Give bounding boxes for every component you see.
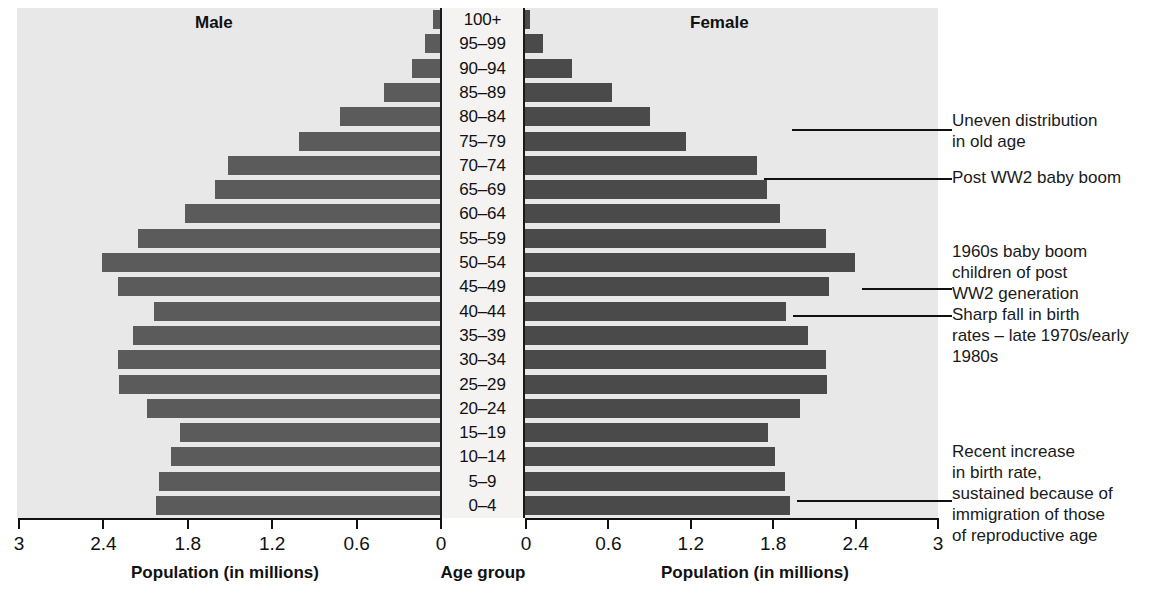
bar-male-100+ (433, 10, 440, 29)
leader-line-sharp-fall-birth-rates (793, 315, 952, 317)
bar-female-45-49 (525, 277, 829, 296)
bar-male-55-59 (138, 229, 440, 248)
age-group-label: 60–64 (440, 202, 525, 226)
right-axis-tick (937, 518, 939, 529)
male-header: Male (195, 13, 233, 33)
age-group-label: 40–44 (440, 300, 525, 324)
bar-female-35-39 (525, 326, 808, 345)
right-axis-tick-label: 0 (496, 533, 556, 555)
bar-row (0, 397, 1172, 421)
annotation-uneven-old-age: Uneven distribution in old age (952, 110, 1172, 152)
age-group-label: 65–69 (440, 178, 525, 202)
annotation-1960s-baby-boom: 1960s baby boom children of post WW2 gen… (952, 241, 1172, 304)
right-axis-tick (690, 518, 692, 529)
bar-male-60-64 (185, 204, 440, 223)
bar-female-80-84 (525, 107, 650, 126)
age-group-label: 5–9 (440, 470, 525, 494)
bar-male-10-14 (171, 447, 440, 466)
age-group-label: 45–49 (440, 275, 525, 299)
annotation-sharp-fall-birth-rates: Sharp fall in birth rates – late 1970s/e… (952, 304, 1172, 367)
bar-female-55-59 (525, 229, 826, 248)
bar-female-0-4 (525, 496, 790, 515)
right-axis-tick (607, 518, 609, 529)
bar-female-5-9 (525, 472, 785, 491)
center-axis-title: Age group (418, 563, 548, 583)
age-group-label: 30–34 (440, 348, 525, 372)
bar-female-25-29 (525, 375, 827, 394)
leader-line-recent-increase-birth-rate (797, 500, 952, 502)
left-axis-tick-label: 1.8 (158, 533, 218, 555)
age-group-label: 10–14 (440, 445, 525, 469)
left-axis-title: Population (in millions) (50, 563, 400, 583)
bar-male-75-79 (299, 132, 440, 151)
left-axis-tick (187, 518, 189, 529)
annotation-post-ww2-baby-boom: Post WW2 baby boom (952, 167, 1172, 188)
right-axis-tick (525, 518, 527, 529)
right-axis-line (525, 518, 939, 520)
left-axis-tick-label: 0.6 (327, 533, 387, 555)
age-group-label: 95–99 (440, 32, 525, 56)
bar-female-95-99 (525, 34, 543, 53)
left-axis-tick-label: 2.4 (73, 533, 133, 555)
right-axis-tick-label: 0.6 (578, 533, 638, 555)
bar-female-40-44 (525, 302, 786, 321)
right-axis-tick (772, 518, 774, 529)
bar-male-70-74 (228, 156, 440, 175)
right-axis-tick-label: 1.2 (661, 533, 721, 555)
bar-male-65-69 (215, 180, 440, 199)
leader-line-1960s-baby-boom (862, 288, 952, 290)
left-axis-tick (440, 518, 442, 529)
left-axis-tick (356, 518, 358, 529)
bar-row (0, 202, 1172, 226)
age-group-label: 20–24 (440, 397, 525, 421)
bar-male-50-54 (102, 253, 440, 272)
age-group-label: 35–39 (440, 324, 525, 348)
right-axis-title: Population (in millions) (580, 563, 930, 583)
age-group-label: 55–59 (440, 227, 525, 251)
bar-female-100+ (525, 10, 530, 29)
bar-female-65-69 (525, 180, 767, 199)
bar-male-45-49 (118, 277, 440, 296)
bar-female-20-24 (525, 399, 800, 418)
bar-male-20-24 (147, 399, 440, 418)
bar-row (0, 373, 1172, 397)
bar-male-40-44 (154, 302, 440, 321)
female-header: Female (690, 13, 749, 33)
bar-row (0, 57, 1172, 81)
age-group-label: 90–94 (440, 57, 525, 81)
bar-female-75-79 (525, 132, 686, 151)
left-axis-tick (102, 518, 104, 529)
age-group-label: 0–4 (440, 494, 525, 518)
left-axis-tick (18, 518, 20, 529)
bar-row (0, 8, 1172, 32)
bar-male-15-19 (180, 423, 440, 442)
age-group-label: 70–74 (440, 154, 525, 178)
population-pyramid-figure: 100+95–9990–9485–8980–8475–7970–7465–696… (0, 0, 1172, 596)
bar-female-15-19 (525, 423, 768, 442)
age-group-label: 100+ (440, 8, 525, 32)
bar-male-5-9 (159, 472, 440, 491)
left-axis-tick-label: 1.2 (242, 533, 302, 555)
age-group-label: 15–19 (440, 421, 525, 445)
leader-line-uneven-old-age (792, 129, 952, 131)
bar-male-30-34 (118, 350, 440, 369)
right-axis-tick-label: 1.8 (743, 533, 803, 555)
leader-line-post-ww2-baby-boom (764, 178, 952, 180)
bar-row (0, 32, 1172, 56)
bar-male-25-29 (119, 375, 440, 394)
bar-male-0-4 (156, 496, 440, 515)
right-axis-tick-label: 2.4 (826, 533, 886, 555)
bar-female-50-54 (525, 253, 855, 272)
left-axis-tick-label: 0 (411, 533, 471, 555)
age-group-label: 50–54 (440, 251, 525, 275)
left-axis-line (18, 518, 440, 520)
age-group-label: 75–79 (440, 130, 525, 154)
bar-male-80-84 (340, 107, 440, 126)
bar-row (0, 81, 1172, 105)
age-group-label: 85–89 (440, 81, 525, 105)
bar-female-30-34 (525, 350, 826, 369)
bar-male-35-39 (133, 326, 440, 345)
bar-male-90-94 (412, 59, 440, 78)
bar-male-95-99 (425, 34, 440, 53)
right-axis-tick (855, 518, 857, 529)
